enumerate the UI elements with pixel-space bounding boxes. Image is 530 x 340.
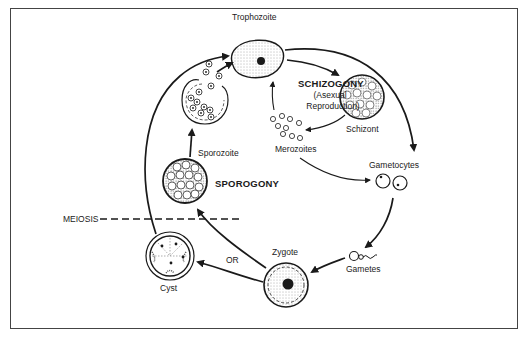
label-or: OR — [226, 255, 239, 265]
merozoites-cluster — [270, 113, 302, 140]
label-meiosis: MEIOSIS — [63, 214, 98, 224]
label-sporozoite: Sporozoite — [198, 148, 239, 158]
label-gametocytes: Gametocytes — [369, 160, 419, 170]
zygote-cell — [264, 263, 308, 307]
arrow-schizont-to-merozoites — [306, 115, 345, 130]
gametes-cells — [350, 252, 378, 261]
trophozoite-cell — [231, 40, 283, 78]
arrow-gametes-to-zygote — [312, 258, 345, 272]
label-schizogony: SCHIZOGONY — [298, 78, 364, 89]
arrow-sporozoite-to-trophozoite — [217, 63, 232, 72]
arrow-merozoites-to-trophozoite — [272, 82, 274, 110]
label-zygote: Zygote — [272, 247, 298, 257]
label-gametes: Gametes — [346, 264, 381, 274]
arrow-gametocytes-to-gametes — [366, 198, 393, 247]
arrow-merozoites-to-gametocytes — [300, 158, 370, 180]
arrow-cyst-to-trophozoite — [145, 56, 228, 234]
label-schizogony-note-1: (Asexual — [300, 90, 360, 100]
gametocytes-cells — [376, 174, 407, 190]
sporogony-cell — [163, 159, 207, 203]
life-cycle-diagram — [0, 0, 530, 340]
sporozoite-release — [182, 61, 228, 124]
arrow-zygote-to-cyst — [198, 262, 263, 282]
label-schizogony-note-2: Reproduction) — [300, 101, 366, 111]
arrow-trophozoite-to-schizont — [287, 60, 338, 75]
label-merozoites: Merozoites — [275, 144, 317, 154]
label-sporogony: SPOROGONY — [215, 178, 279, 189]
label-trophozoite: Trophozoite — [232, 12, 277, 22]
arrow-sporogony-to-sporozoite — [190, 130, 192, 157]
label-schizont: Schizont — [346, 124, 379, 134]
cyst-cell — [146, 232, 194, 280]
label-cyst: Cyst — [160, 283, 177, 293]
